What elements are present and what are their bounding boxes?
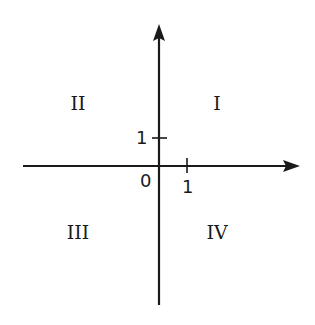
quadrant-label-iv: IV [206,223,227,242]
y-tick-label: 1 [136,129,147,147]
axes-svg [0,0,315,325]
quadrant-label-iii: III [67,223,90,242]
x-tick-label: 1 [182,178,193,196]
origin-label: 0 [140,172,151,190]
quadrant-label-ii: II [70,94,85,113]
coordinate-plane: 1 1 0 II I III IV [0,0,315,325]
quadrant-label-i: I [213,94,221,113]
